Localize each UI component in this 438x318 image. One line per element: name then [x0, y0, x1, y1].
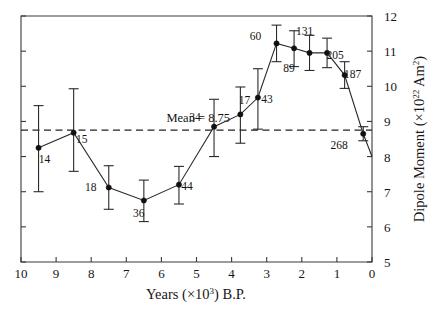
data-point-label: 268	[331, 139, 349, 151]
data-marker	[255, 95, 260, 100]
data-point-label: 205	[326, 49, 344, 61]
data-marker	[307, 50, 312, 55]
x-tick-label: 1	[334, 266, 341, 281]
x-axis-tick-labels: 109876543210	[15, 266, 376, 281]
data-point-labels: 14151836443417436089131205187268	[39, 25, 362, 219]
x-tick-label: 10	[15, 266, 28, 281]
x-tick-label: 6	[158, 266, 165, 281]
data-marker	[141, 198, 146, 203]
data-marker	[291, 46, 296, 51]
x-tick-label: 0	[369, 266, 376, 281]
chart-canvas: 109876543210 56789101112 Mean = 8.75 141…	[0, 0, 438, 318]
data-point-label: 17	[239, 94, 251, 106]
data-point-label: 187	[344, 68, 362, 80]
x-axis-title: Years (×103) B.P.	[146, 286, 246, 303]
x-tick-label: 5	[193, 266, 200, 281]
data-marker	[36, 145, 41, 150]
data-point-label: 89	[283, 62, 295, 74]
x-tick-label: 4	[228, 266, 235, 281]
y-tick-label: 11	[384, 44, 397, 59]
y-axis-tick-labels: 56789101112	[384, 9, 397, 270]
y-tick-label: 8	[384, 150, 391, 165]
data-marker	[211, 124, 216, 129]
x-axis-title-tail: ) B.P.	[214, 286, 246, 303]
x-tick-label: 7	[123, 266, 130, 281]
data-marker	[106, 185, 111, 190]
x-tick-label: 8	[88, 266, 95, 281]
data-marker	[361, 131, 366, 136]
data-point-label: 60	[250, 30, 262, 42]
y-axis-title-main: Dipole Moment (×10	[411, 99, 428, 222]
x-tick-label: 9	[53, 266, 60, 281]
y-tick-label: 12	[384, 9, 397, 24]
y-tick-label: 7	[384, 185, 391, 200]
data-point-label: 131	[296, 25, 314, 37]
data-point-label: 15	[76, 133, 88, 145]
x-tick-label: 2	[299, 266, 306, 281]
y-axis-title-tail-2: )	[411, 56, 428, 61]
y-tick-label: 10	[384, 79, 397, 94]
y-tick-label: 9	[384, 114, 391, 129]
svg-text:Years (×103) B.P.: Years (×103) B.P.	[146, 286, 246, 303]
svg-text:Dipole Moment (×1022 Am2): Dipole Moment (×1022 Am2)	[411, 56, 428, 222]
x-axis-title-main: Years (×10	[146, 286, 210, 303]
y-tick-label: 5	[384, 255, 391, 270]
x-tick-label: 3	[263, 266, 270, 281]
y-axis-title-tail: Am	[411, 64, 427, 89]
data-marker	[238, 112, 243, 117]
data-point-label: 18	[85, 181, 97, 193]
data-point-label: 14	[39, 153, 51, 165]
data-marker	[274, 41, 279, 46]
x-axis-ticks	[21, 257, 372, 262]
data-point-label: 34	[189, 111, 201, 123]
data-point-label: 43	[261, 93, 273, 105]
y-tick-label: 6	[384, 220, 391, 235]
y-axis-title-exponent: 22	[411, 90, 421, 99]
data-point-label: 44	[181, 180, 193, 192]
chart-figure: 109876543210 56789101112 Mean = 8.75 141…	[0, 0, 438, 318]
data-point-label: 36	[133, 207, 145, 219]
y-axis-title: Dipole Moment (×1022 Am2)	[411, 56, 428, 222]
